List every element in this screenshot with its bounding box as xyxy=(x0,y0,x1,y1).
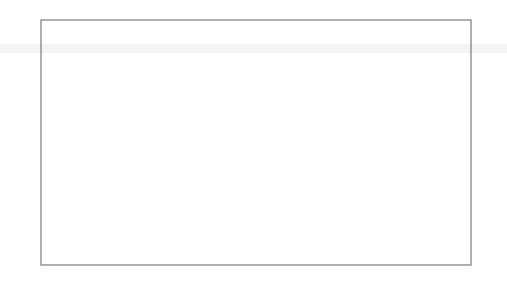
plot-frame xyxy=(41,20,471,265)
interest-rate-line-chart xyxy=(0,0,507,296)
scan-artifact-band xyxy=(0,44,507,53)
plot-border xyxy=(41,20,471,265)
chart-container xyxy=(0,0,507,296)
scan-band-rect xyxy=(0,44,507,53)
